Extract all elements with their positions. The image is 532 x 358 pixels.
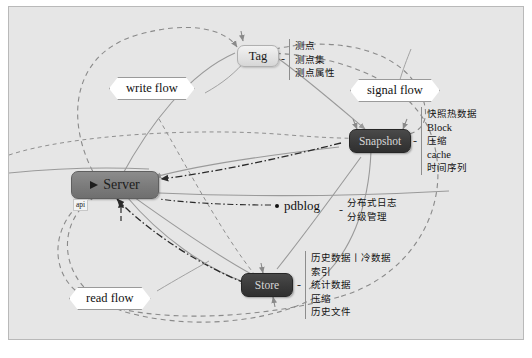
flow-label-write[interactable]: write flow xyxy=(109,77,195,100)
arrow-into-store-top xyxy=(261,263,263,273)
edge-pdblog-to-server-dashdot xyxy=(159,199,271,205)
figure-caption xyxy=(0,342,532,356)
pdblog-bullet-icon xyxy=(275,204,279,208)
snapshot-attr: Block xyxy=(427,121,477,135)
arrow-into-tag-top xyxy=(241,31,243,41)
edge-mid-dashed-1 xyxy=(9,132,381,155)
node-pdblog-attributes: - 分布式日志 分级管理 xyxy=(339,196,397,223)
node-tag-label: Tag xyxy=(249,49,268,64)
snapshot-attr: 快照热数据 xyxy=(427,107,477,121)
edge-store-to-server-dashdot xyxy=(117,199,245,283)
flow-label-read[interactable]: read flow xyxy=(69,287,151,310)
node-server[interactable]: Server xyxy=(71,171,159,199)
node-tag[interactable]: Tag xyxy=(237,45,279,67)
node-snapshot[interactable]: Snapshot xyxy=(349,129,411,153)
store-separator: - xyxy=(297,279,301,291)
snapshot-attr: cache xyxy=(427,148,477,162)
store-attr: 统计数据 xyxy=(311,278,391,292)
snapshot-attr: 压缩 xyxy=(427,134,477,148)
edge-store-to-server-solid xyxy=(131,195,253,275)
arrow-into-store-bottom xyxy=(273,297,275,307)
store-attr: 历史数据丨冷数据 xyxy=(311,251,391,265)
store-attr: 历史文件 xyxy=(311,305,391,319)
edge-server-to-tag-solid xyxy=(121,53,235,177)
pdblog-attr: 分布式日志 xyxy=(347,196,397,210)
snapshot-separator: - xyxy=(413,135,417,147)
node-server-label: Server xyxy=(103,177,140,193)
pdblog-separator: - xyxy=(339,204,343,216)
diagram-canvas: Server api Tag - 测点 测点集 测点属性 Snapshot - … xyxy=(8,6,524,340)
server-api-badge: api xyxy=(73,199,88,211)
edge-server-to-tag-dashed xyxy=(78,27,237,179)
node-store-attributes: - 历史数据丨冷数据 索引 统计数据 压缩 历史文件 xyxy=(297,251,391,319)
node-store-label: Store xyxy=(255,279,279,291)
node-tag-attributes: - 测点 测点集 测点属性 xyxy=(281,39,335,80)
arrow-into-snapshot-top-right xyxy=(403,119,407,129)
tag-attr: 测点 xyxy=(295,39,335,53)
edge-snapshot-to-server-dashdot xyxy=(161,143,341,179)
pdblog-attr: 分级管理 xyxy=(347,210,397,224)
diagram-root: Server api Tag - 测点 测点集 测点属性 Snapshot - … xyxy=(0,0,532,358)
flow-label-signal[interactable]: signal flow xyxy=(350,79,440,102)
node-store[interactable]: Store xyxy=(241,273,293,297)
edge-snapshot-to-server-solid xyxy=(155,147,339,177)
snapshot-attr: 时间序列 xyxy=(427,161,477,175)
edge-server-to-store-solid xyxy=(127,197,247,283)
node-pdblog-label: pdblog xyxy=(284,198,320,214)
store-attr: 索引 xyxy=(311,265,391,279)
node-snapshot-attributes: - 快照热数据 Block 压缩 cache 时间序列 xyxy=(413,107,477,175)
edge-mid-dashed-2 xyxy=(159,119,255,275)
node-snapshot-label: Snapshot xyxy=(359,135,401,147)
store-attr: 压缩 xyxy=(311,292,391,306)
node-pdblog[interactable]: pdblog xyxy=(275,197,337,215)
tag-separator: - xyxy=(281,53,285,65)
tag-attr: 测点集 xyxy=(295,53,335,67)
stem-signal-flow xyxy=(399,49,411,83)
edge-server-right-solid xyxy=(159,191,449,196)
flag-icon xyxy=(90,181,98,189)
stem-read-flow xyxy=(157,261,209,291)
tag-attr: 测点属性 xyxy=(295,66,335,80)
